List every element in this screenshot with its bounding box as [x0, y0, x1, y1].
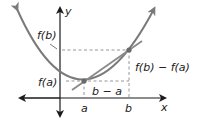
run-label: b − a	[92, 85, 122, 98]
a-tick-label: a	[81, 102, 88, 115]
fb-label: f(b)	[37, 29, 56, 42]
diagram-canvas: y x a b f(a) f(b) b − a f(b) − f(a)	[0, 0, 199, 125]
fb-leader-line	[50, 44, 57, 49]
fa-label: f(a)	[38, 76, 57, 89]
x-axis-label: x	[160, 101, 168, 114]
b-tick-label: b	[125, 102, 132, 115]
y-axis-label: y	[64, 5, 72, 18]
point-a	[81, 78, 86, 83]
rise-label: f(b) − f(a)	[135, 61, 190, 74]
parabola-curve	[17, 9, 154, 80]
point-b	[126, 47, 131, 52]
